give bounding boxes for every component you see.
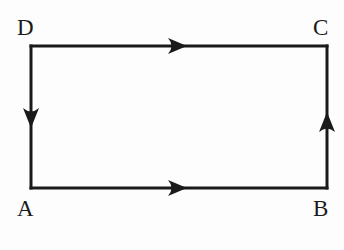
rectangle-outline bbox=[31, 46, 327, 188]
vertex-label-C: C bbox=[313, 16, 328, 39]
geometry-figure-canvas: D C A B bbox=[0, 0, 344, 250]
edge-direction-arrowheads bbox=[23, 38, 335, 196]
rectangle-diagram-svg bbox=[0, 0, 344, 250]
vertex-label-D: D bbox=[17, 16, 34, 39]
vertex-label-B: B bbox=[313, 197, 328, 220]
vertex-label-A: A bbox=[17, 197, 34, 220]
